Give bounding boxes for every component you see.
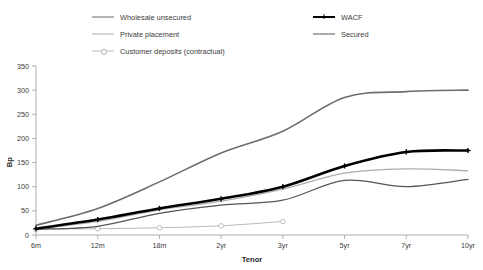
y-tick-label: 50 — [21, 206, 29, 215]
plot-area: 050100150200250300350 6m12m18m2yr3yr5yr7… — [0, 52, 483, 270]
y-tick-label: 150 — [17, 158, 29, 167]
x-tick-group: 6m12m18m2yr3yr5yr7yr10yr — [31, 235, 476, 250]
x-tick-label: 10yr — [461, 241, 476, 250]
legend-swatch-wholesale-unsecured — [92, 11, 114, 23]
x-tick-label: 7yr — [401, 241, 412, 250]
circle-marker-icon — [219, 224, 224, 229]
x-axis-title: Tenor — [242, 255, 263, 264]
plus-marker-icon — [404, 149, 409, 154]
circle-marker-icon — [157, 225, 162, 230]
x-tick-label: 5yr — [340, 241, 351, 250]
series-line-wacf — [36, 150, 468, 228]
legend-label-secured: Secured — [341, 30, 369, 39]
x-tick-label: 12m — [91, 241, 105, 250]
legend-swatch-wacf: + — [313, 11, 335, 23]
series-line-wholesale-unsecured — [36, 90, 468, 225]
x-tick-label: 6m — [31, 241, 41, 250]
chart-container: Wholesale unsecured Private placement Cu… — [0, 0, 483, 270]
y-axis: 050100150200250300350 — [17, 62, 36, 240]
chart-svg: 050100150200250300350 6m12m18m2yr3yr5yr7… — [0, 52, 483, 270]
legend-item-secured: Secured — [313, 27, 369, 41]
y-tick-label: 100 — [17, 182, 29, 191]
series-line-secured — [36, 179, 468, 229]
plus-marker-icon — [465, 148, 470, 153]
y-tick-label: 300 — [17, 86, 29, 95]
legend-item-private-placement: Private placement — [92, 27, 225, 41]
plus-marker-icon: + — [321, 13, 326, 22]
legend-swatch-private-placement — [92, 28, 114, 40]
y-tick-label: 200 — [17, 134, 29, 143]
y-tick-group: 050100150200250300350 — [17, 62, 36, 240]
chart-legend: Wholesale unsecured Private placement Cu… — [0, 8, 483, 52]
x-tick-label: 18m — [152, 241, 166, 250]
legend-item-wacf: + WACF — [313, 10, 369, 24]
circle-marker-icon — [281, 219, 286, 224]
legend-label-wholesale-unsecured: Wholesale unsecured — [120, 13, 191, 22]
legend-swatch-secured — [313, 28, 335, 40]
legend-label-private-placement: Private placement — [120, 30, 179, 39]
x-tick-label: 2yr — [216, 241, 227, 250]
legend-label-wacf: WACF — [341, 13, 362, 22]
y-axis-title: Bp — [5, 157, 14, 167]
x-axis: 6m12m18m2yr3yr5yr7yr10yr — [31, 235, 476, 250]
y-tick-label: 0 — [25, 231, 29, 240]
y-tick-label: 350 — [17, 62, 29, 71]
legend-item-wholesale-unsecured: Wholesale unsecured — [92, 10, 225, 24]
legend-column-right: + WACF Secured — [313, 10, 369, 44]
series-group — [33, 90, 470, 231]
y-tick-label: 250 — [17, 110, 29, 119]
x-tick-label: 3yr — [278, 241, 289, 250]
